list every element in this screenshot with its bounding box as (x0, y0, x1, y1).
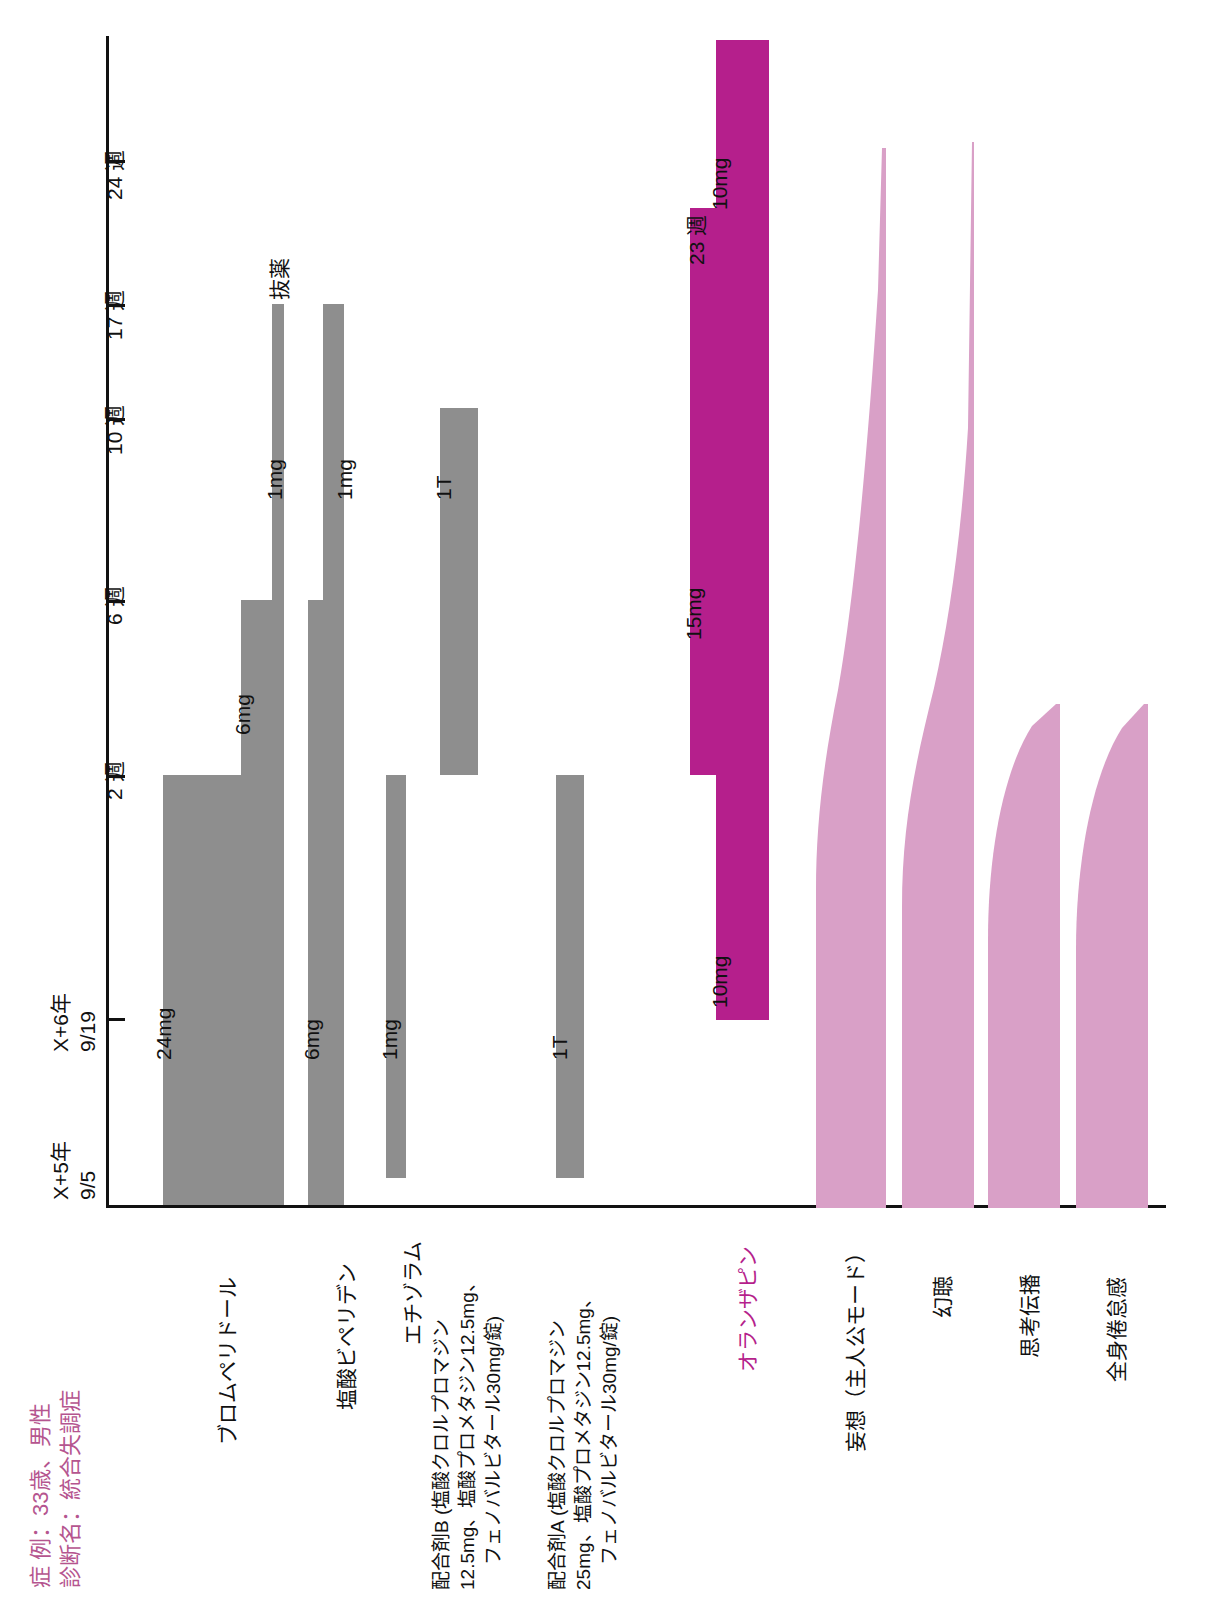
bar-etizolam-1mg (386, 775, 406, 1178)
bar-compound-a-1t (556, 775, 584, 1178)
dose-label-biperiden-1mg: 1mg (333, 459, 357, 500)
date-label-year-x6: X+6年 (44, 993, 74, 1052)
dose-label-bromperidol-24mg: 24mg (152, 1007, 176, 1060)
dose-label-bromperidol-stop: 抜薬 (263, 258, 293, 300)
row-label-olanzapine: オランザピン (735, 1246, 761, 1372)
dose-label-compound-a-1t: 1T (548, 1035, 572, 1060)
symptom-wedge-fatigue (1074, 700, 1150, 1208)
row-label-compound-a-line2: 25mg、塩酸プロメタジン12.5mg、 (572, 1289, 596, 1590)
bar-bromperidol-24mg (163, 775, 241, 1205)
marker-label-olanzapine-23w: 23 週 (680, 215, 710, 265)
tick-label-17w: 17 週 (98, 290, 128, 340)
row-label-thought-broadcast: 思考伝播 (1017, 1274, 1043, 1358)
row-label-fatigue: 全身倦怠感 (1104, 1277, 1130, 1382)
dose-label-bromperidol-6mg: 6mg (231, 694, 255, 735)
row-label-delusion: 妄想（主人公モード） (843, 1242, 869, 1452)
bar-olanzapine-15mg (690, 208, 769, 775)
dose-label-olanzapine-10mg-end: 10mg (708, 157, 732, 210)
tick-mark-9-19 (109, 1018, 125, 1021)
tick-label-6w: 6 週 (98, 586, 128, 625)
symptom-wedge-thought-broadcast (986, 700, 1062, 1208)
tick-label-10w: 10 週 (98, 405, 128, 455)
row-label-compound-b-line1: 配合剤B (塩酸クロルプロマジン (430, 1319, 454, 1590)
row-label-bromperidol: ブロムペリドール (215, 1277, 241, 1445)
bar-biperiden-1mg (323, 304, 344, 1205)
dose-label-biperiden-6mg: 6mg (300, 1019, 324, 1060)
date-label-date-9-5: 9/5 (76, 1171, 100, 1200)
dose-label-olanzapine-15mg: 15mg (682, 587, 706, 640)
tick-label-24w: 24 週 (98, 150, 128, 200)
dose-label-etizolam-1mg: 1mg (378, 1019, 402, 1060)
bar-compound-b-1t (440, 408, 478, 775)
tick-label-2w: 2 週 (98, 761, 128, 800)
date-label-date-9-19: 9/19 (76, 1011, 100, 1052)
case-info-line: 症 例：33歳、男性 (22, 1403, 54, 1588)
row-label-hallucination: 幻聴 (930, 1276, 956, 1318)
dose-label-olanzapine-10mg-start: 10mg (708, 955, 732, 1008)
row-label-compound-b-line3: フェノバルビタール30mg/錠) (482, 1316, 506, 1565)
row-label-etizolam: エチゾラム (400, 1241, 426, 1345)
row-label-compound-a-line1: 配合剤A (塩酸クロルプロマジン (546, 1320, 570, 1590)
symptom-wedge-delusion (812, 130, 888, 1208)
row-label-compound-a-line3: フェノバルビタール30mg/錠) (598, 1316, 622, 1565)
symptom-wedge-hallucination (900, 128, 976, 1208)
diagnosis-line: 診断名：統合失調症 (52, 1390, 84, 1588)
dose-label-bromperidol-1mg: 1mg (263, 459, 287, 500)
row-label-compound-b-line2: 12.5mg、塩酸プロメタジン12.5mg、 (456, 1273, 480, 1590)
bar-bromperidol-1mg (272, 304, 284, 1205)
date-label-year-x5: X+5年 (44, 1141, 74, 1200)
row-label-biperiden: 塩酸ビペリデン (334, 1263, 360, 1410)
dose-label-compound-b-1t: 1T (432, 475, 456, 500)
